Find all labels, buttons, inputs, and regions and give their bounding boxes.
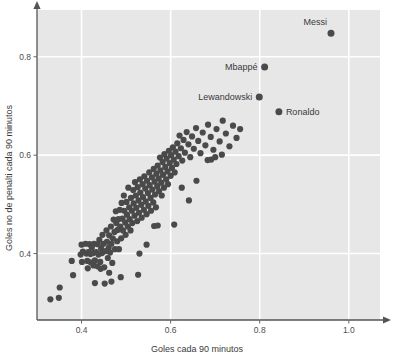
y-tick-label: 0.6 xyxy=(19,150,31,160)
data-point xyxy=(172,169,178,175)
annotation-label: Mbappé xyxy=(225,62,258,72)
data-point xyxy=(179,157,185,163)
data-point xyxy=(219,152,225,158)
data-point xyxy=(127,227,133,233)
data-point xyxy=(186,197,192,203)
annotation-label: Lewandowski xyxy=(198,92,252,102)
data-point xyxy=(47,296,53,302)
x-tick-label: 1.0 xyxy=(343,325,355,335)
data-point xyxy=(180,137,186,143)
data-point xyxy=(202,142,208,148)
data-point xyxy=(191,146,197,152)
data-point xyxy=(143,242,149,248)
data-point xyxy=(105,255,111,261)
y-tick-label: 0.8 xyxy=(19,52,31,62)
data-point xyxy=(213,126,219,132)
data-point xyxy=(108,279,114,285)
y-tick-label: 0.4 xyxy=(19,249,31,259)
chart-canvas: 0.40.60.81.0 0.40.60.8 MessiMbappéLewand… xyxy=(0,0,394,362)
data-point xyxy=(108,223,114,229)
data-point xyxy=(106,270,112,276)
data-point xyxy=(108,241,114,247)
y-axis-title: Goles no de penalti cada 90 minutos xyxy=(4,104,14,251)
annotation-label: Messi xyxy=(303,17,327,27)
data-point xyxy=(179,185,185,191)
data-point xyxy=(193,178,199,184)
data-point xyxy=(187,154,193,160)
data-point xyxy=(56,295,62,301)
data-point xyxy=(210,147,216,153)
data-point xyxy=(212,154,218,160)
data-point xyxy=(205,122,211,128)
data-point xyxy=(116,246,122,252)
data-point xyxy=(220,118,226,124)
annotation-label: Ronaldo xyxy=(286,107,320,117)
x-tick-label: 0.8 xyxy=(254,325,266,335)
data-point xyxy=(171,221,177,227)
annotated-data-point xyxy=(261,64,268,71)
data-point xyxy=(223,130,229,136)
data-point xyxy=(135,272,141,278)
data-point xyxy=(185,141,191,147)
data-point xyxy=(70,272,76,278)
data-point xyxy=(118,274,124,280)
data-point xyxy=(217,138,223,144)
data-point xyxy=(79,259,85,265)
x-axis-title: Goles cada 90 minutos xyxy=(151,344,244,354)
data-point xyxy=(237,126,243,132)
data-point xyxy=(193,125,199,131)
data-point xyxy=(102,280,108,286)
data-point xyxy=(184,129,190,135)
data-point xyxy=(189,133,195,139)
annotated-data-point xyxy=(256,94,263,101)
data-point xyxy=(182,150,188,156)
data-point xyxy=(233,135,239,141)
data-point xyxy=(197,150,203,156)
data-point xyxy=(155,222,161,228)
data-point xyxy=(153,204,159,210)
data-point xyxy=(109,260,115,266)
data-point xyxy=(230,123,236,129)
data-point xyxy=(92,280,98,286)
x-tick-label: 0.6 xyxy=(165,325,177,335)
x-tick-label: 0.4 xyxy=(76,325,88,335)
scatter-chart: 0.40.60.81.0 0.40.60.8 MessiMbappéLewand… xyxy=(0,0,394,362)
data-point xyxy=(123,232,129,238)
annotated-data-point xyxy=(275,108,282,115)
annotated-data-point xyxy=(328,30,335,37)
data-point xyxy=(200,129,206,135)
data-point xyxy=(173,161,179,167)
data-point xyxy=(195,138,201,144)
data-point xyxy=(121,192,127,198)
data-point xyxy=(165,181,171,187)
data-point xyxy=(226,143,232,149)
data-point xyxy=(208,134,214,140)
data-point xyxy=(57,284,63,290)
data-point xyxy=(69,258,75,264)
data-point xyxy=(85,265,91,271)
data-point xyxy=(159,192,165,198)
data-point xyxy=(90,262,96,268)
data-point xyxy=(136,250,142,256)
